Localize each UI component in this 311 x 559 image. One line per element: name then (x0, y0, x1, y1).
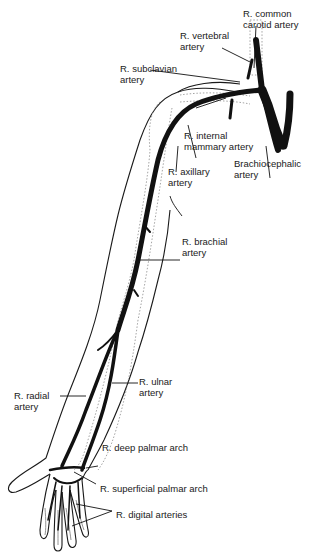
label-radial: R. radial artery (14, 390, 49, 412)
arm-artery-diagram: R. common carotid artery R. vertebral ar… (0, 0, 311, 559)
label-axillary: R. axillary artery (168, 166, 210, 188)
label-deep-palmar-arch: R. deep palmar arch (102, 442, 188, 453)
bone-outline (74, 20, 262, 470)
label-ulnar: R. ulnar artery (139, 376, 172, 398)
arteries (48, 40, 290, 530)
label-superficial-palmar-arch: R. superficial palmar arch (100, 483, 208, 494)
label-vertebral: R. vertebral artery (180, 30, 229, 52)
label-digital-arteries: R. digital arteries (116, 509, 187, 520)
label-brachial: R. brachial artery (182, 236, 227, 258)
label-brachiocephalic: Brachiocephalic artery (234, 158, 301, 180)
label-common-carotid: R. common carotid artery (243, 8, 298, 30)
label-subclavian: R. subclavian artery (120, 63, 177, 85)
label-internal-mammary: R. internal mammary artery (184, 130, 253, 152)
